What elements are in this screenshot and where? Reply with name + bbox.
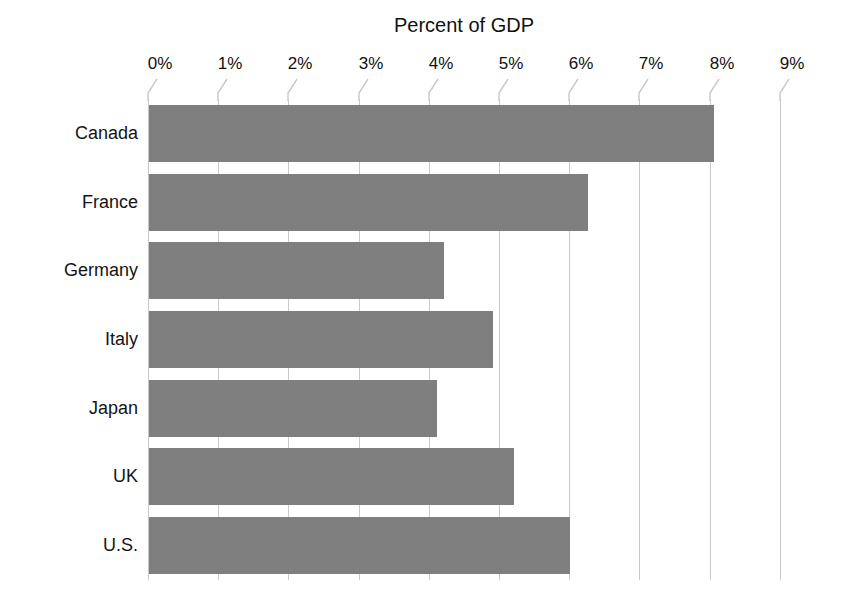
y-axis-category-label: Germany: [0, 260, 138, 281]
x-axis-tick-label: 5%: [481, 54, 541, 74]
x-axis-tick-label: 6%: [551, 54, 611, 74]
y-axis-category-label: France: [0, 192, 138, 213]
x-axis-tick-label: 3%: [341, 54, 401, 74]
x-axis-tick-label: 7%: [621, 54, 681, 74]
x-axis-tick-label: 9%: [762, 54, 822, 74]
labels-layer: 0%1%2%3%4%5%6%7%8%9%CanadaFranceGermanyI…: [0, 0, 849, 610]
x-axis-tick-label: 8%: [692, 54, 752, 74]
y-axis-category-label: Canada: [0, 123, 138, 144]
y-axis-category-label: Japan: [0, 398, 138, 419]
x-axis-tick-label: 1%: [200, 54, 260, 74]
x-axis-tick-label: 4%: [411, 54, 471, 74]
x-axis-tick-label: 2%: [270, 54, 330, 74]
y-axis-category-label: Italy: [0, 329, 138, 350]
x-axis-tick-label: 0%: [130, 54, 190, 74]
bar-chart: Percent of GDP 0%1%2%3%4%5%6%7%8%9%Canad…: [0, 0, 849, 610]
y-axis-category-label: UK: [0, 466, 138, 487]
y-axis-category-label: U.S.: [0, 535, 138, 556]
